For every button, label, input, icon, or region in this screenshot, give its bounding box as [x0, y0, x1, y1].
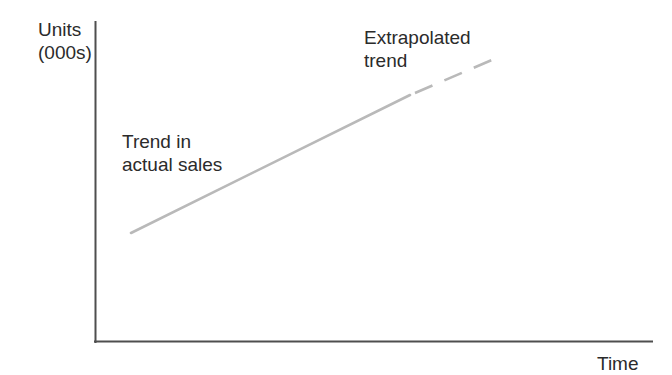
series-label-actual-sales-line2: actual sales — [122, 154, 222, 175]
series-label-extrapolated-trend-line1: Extrapolated — [364, 27, 471, 48]
series-label-extrapolated-trend: Extrapolatedtrend — [364, 26, 471, 72]
chart-plot-area — [0, 0, 672, 375]
x-axis-title: Time — [597, 352, 639, 375]
y-axis-title-line2: (000s) — [38, 42, 92, 63]
chart-figure: Units(000s) Trend inactual sales Extrapo… — [0, 0, 672, 375]
series-label-extrapolated-trend-line2: trend — [364, 50, 407, 71]
series-label-actual-sales: Trend inactual sales — [122, 130, 222, 176]
y-axis-title: Units(000s) — [38, 18, 92, 64]
series-label-actual-sales-line1: Trend in — [122, 131, 191, 152]
y-axis-title-line1: Units — [38, 19, 81, 40]
